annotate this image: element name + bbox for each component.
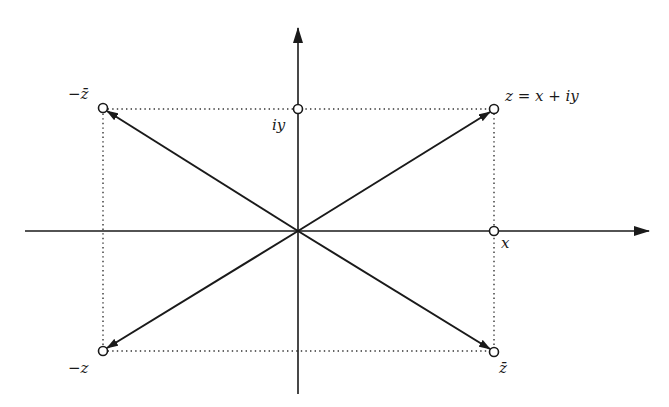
label-minus-z: −z	[68, 361, 88, 376]
point-z-bar-icon	[490, 348, 499, 357]
point-minus-z-icon	[99, 347, 108, 356]
marker-iy-icon	[294, 105, 303, 114]
point-minus-z-bar-icon	[99, 104, 108, 113]
label-z-bar: z̄	[499, 361, 507, 376]
vector-minus-z-bar	[107, 111, 298, 231]
label-z: z = x + iy	[505, 89, 579, 104]
vector-z-bar	[298, 231, 490, 349]
label-iy: iy	[272, 118, 285, 133]
marker-x-icon	[490, 227, 499, 236]
point-z-icon	[490, 105, 499, 114]
label-x: x	[501, 236, 509, 251]
label-minus-z-bar: −z̄	[68, 87, 88, 102]
vector-minus-z	[107, 231, 298, 348]
vector-z	[298, 112, 490, 231]
complex-plane-diagram	[0, 0, 669, 407]
